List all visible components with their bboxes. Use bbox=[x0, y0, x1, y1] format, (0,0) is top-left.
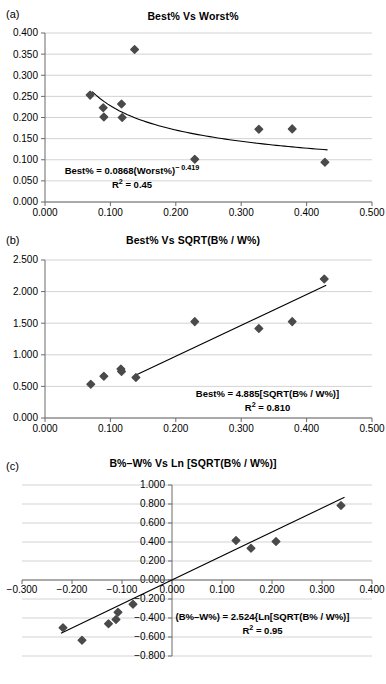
svg-text:0.400: 0.400 bbox=[294, 423, 319, 434]
svg-text:0.800: 0.800 bbox=[140, 498, 165, 509]
svg-text:0.200: 0.200 bbox=[13, 112, 38, 123]
chart-panel-a: (a) Best% Vs Worst% 0.0000.0500.1000.150… bbox=[0, 0, 386, 228]
svg-text:0.500: 0.500 bbox=[359, 207, 384, 218]
svg-text:0.250: 0.250 bbox=[13, 91, 38, 102]
svg-text:0.200: 0.200 bbox=[163, 423, 188, 434]
svg-text:0.400: 0.400 bbox=[13, 27, 38, 38]
data-point-marker bbox=[105, 620, 113, 628]
svg-text:0.500: 0.500 bbox=[359, 423, 384, 434]
svg-text:0.000: 0.000 bbox=[13, 196, 38, 207]
data-point-marker bbox=[99, 104, 107, 112]
svg-text:0.400: 0.400 bbox=[140, 536, 165, 547]
svg-text:0.100: 0.100 bbox=[209, 584, 234, 595]
svg-text:−0.100: −0.100 bbox=[107, 584, 138, 595]
plot-area-a: 0.0000.0500.1000.1500.2000.2500.3000.350… bbox=[0, 0, 386, 228]
data-point-marker bbox=[118, 114, 126, 122]
equation-annotation-a: Best% = 0.0868(Worst%)− 0.419R2 = 0.45 bbox=[42, 163, 222, 191]
svg-text:0.000: 0.000 bbox=[32, 423, 57, 434]
data-point-marker bbox=[118, 100, 126, 108]
data-point-marker bbox=[87, 380, 95, 388]
svg-text:2.000: 2.000 bbox=[13, 286, 38, 297]
data-point-marker bbox=[288, 318, 296, 326]
svg-text:−0.200: −0.200 bbox=[57, 584, 88, 595]
svg-text:−0.300: −0.300 bbox=[7, 584, 38, 595]
svg-text:0.200: 0.200 bbox=[140, 555, 165, 566]
data-point-marker bbox=[232, 537, 240, 545]
data-point-marker bbox=[114, 609, 122, 617]
data-point-marker bbox=[272, 538, 280, 546]
svg-text:0.100: 0.100 bbox=[98, 207, 123, 218]
data-point-marker bbox=[191, 318, 199, 326]
data-point-marker bbox=[255, 126, 263, 134]
data-point-marker bbox=[100, 113, 108, 121]
svg-text:0.300: 0.300 bbox=[309, 584, 334, 595]
data-point-marker bbox=[320, 275, 328, 283]
equation-annotation-c: (B%–W%) = 2.524{Ln[SQRT(B% / W%)]R2 = 0.… bbox=[141, 611, 384, 637]
svg-text:1.000: 1.000 bbox=[13, 349, 38, 360]
svg-text:0.300: 0.300 bbox=[229, 423, 254, 434]
svg-text:0.000: 0.000 bbox=[32, 207, 57, 218]
chart-panel-b: (b) Best% Vs SQRT(B% / W%) 0.0000.5001.0… bbox=[0, 228, 386, 448]
svg-text:2.500: 2.500 bbox=[13, 254, 38, 265]
data-point-marker bbox=[112, 616, 120, 624]
data-point-marker bbox=[288, 125, 296, 133]
svg-text:0.100: 0.100 bbox=[13, 154, 38, 165]
svg-text:0.000: 0.000 bbox=[13, 412, 38, 423]
svg-text:0.400: 0.400 bbox=[294, 207, 319, 218]
svg-text:0.300: 0.300 bbox=[229, 207, 254, 218]
svg-text:0.100: 0.100 bbox=[98, 423, 123, 434]
svg-text:0.400: 0.400 bbox=[359, 584, 384, 595]
data-point-marker bbox=[247, 544, 255, 552]
data-point-marker bbox=[100, 372, 108, 380]
svg-text:0.050: 0.050 bbox=[13, 175, 38, 186]
data-point-marker bbox=[131, 46, 139, 54]
svg-text:0.500: 0.500 bbox=[13, 381, 38, 392]
svg-text:0.300: 0.300 bbox=[13, 70, 38, 81]
svg-text:0.600: 0.600 bbox=[140, 517, 165, 528]
data-point-marker bbox=[337, 502, 345, 510]
figure-container: (a) Best% Vs Worst% 0.0000.0500.1000.150… bbox=[0, 0, 386, 684]
plot-area-b: 0.0000.5001.0001.5002.0002.5000.0000.100… bbox=[0, 228, 386, 448]
svg-text:0.200: 0.200 bbox=[259, 584, 284, 595]
data-point-marker bbox=[132, 374, 140, 382]
svg-text:0.350: 0.350 bbox=[13, 49, 38, 60]
svg-text:1.000: 1.000 bbox=[140, 479, 165, 490]
data-point-marker bbox=[255, 325, 263, 333]
svg-text:0.200: 0.200 bbox=[163, 207, 188, 218]
svg-text:−0.200: −0.200 bbox=[134, 593, 165, 604]
svg-text:−0.800: −0.800 bbox=[134, 650, 165, 661]
data-point-marker bbox=[78, 637, 86, 645]
svg-text:1.500: 1.500 bbox=[13, 318, 38, 329]
svg-text:0.000: 0.000 bbox=[159, 584, 184, 595]
plot-area-c: −0.800−0.600−0.400−0.2000.0000.2000.4000… bbox=[0, 448, 386, 684]
chart-panel-c: (c) B%–W% Vs Ln [SQRT(B% / W%)] −0.800−0… bbox=[0, 448, 386, 684]
data-point-marker bbox=[191, 156, 199, 164]
svg-text:0.150: 0.150 bbox=[13, 133, 38, 144]
equation-annotation-b: Best% = 4.885[SQRT(B% / W%)]R2 = 0.810 bbox=[155, 388, 380, 414]
